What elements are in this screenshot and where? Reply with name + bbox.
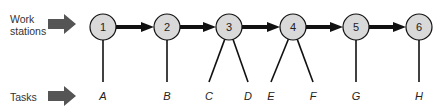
station-number: 3 [226,21,232,33]
flow-arrow-icon [116,22,154,32]
station-number: 1 [100,21,106,33]
work-station-6: 6 [406,14,432,40]
station-number: 5 [353,21,359,33]
stations-block-arrow-icon [48,14,76,34]
station-number: 4 [290,21,296,33]
task-label-H: H [415,90,423,102]
task-label-D: D [244,90,252,102]
flow-arrow-icon [242,22,280,32]
flow-arrow-icon [180,22,216,32]
work-station-4: 4 [280,14,306,40]
flow-arrow-icon [369,22,406,32]
station-number: 2 [164,21,170,33]
work-station-1: 1 [90,14,116,40]
tasks-block-arrow-icon [48,86,76,106]
task-link-F [297,39,313,82]
work-station-2: 2 [154,14,180,40]
task-link-D [233,39,248,82]
task-label-A: A [98,90,106,102]
station-number: 6 [416,21,422,33]
task-link-C [209,39,225,82]
task-label-C: C [205,90,213,102]
task-link-E [271,38,289,82]
assembly-line-diagram: 123456 ABCDEFGH [0,0,437,110]
task-label-F: F [310,90,318,102]
task-label-G: G [352,90,361,102]
work-station-5: 5 [343,14,369,40]
task-label-E: E [267,90,275,102]
flow-arrow-icon [306,22,343,32]
task-label-B: B [163,90,170,102]
work-station-3: 3 [216,14,242,40]
